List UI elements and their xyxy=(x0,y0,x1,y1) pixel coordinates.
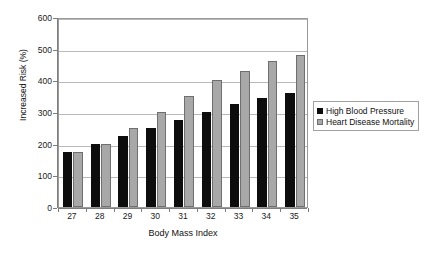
y-axis-tick-mark xyxy=(53,113,57,114)
x-axis-tick-labels: 272829303132333435 xyxy=(58,211,308,225)
y-axis-tick-mark xyxy=(53,50,57,51)
x-axis-tick-mark xyxy=(141,208,142,212)
bar xyxy=(257,98,267,207)
bar xyxy=(157,112,167,207)
y-axis-tick-label: 0 xyxy=(18,204,52,212)
y-axis-tick-mark xyxy=(53,81,57,82)
y-axis-tick-label: 200 xyxy=(18,141,52,149)
plot-inner xyxy=(59,19,307,207)
bar xyxy=(202,112,212,207)
x-axis-tick-label: 30 xyxy=(143,211,167,221)
x-axis-tick-mark xyxy=(114,208,115,212)
bar xyxy=(296,55,306,207)
bar xyxy=(101,144,111,207)
y-axis-tick-label: 500 xyxy=(18,46,52,54)
bar xyxy=(129,128,139,207)
x-axis-tick-label: 34 xyxy=(254,211,278,221)
x-axis-tick-mark xyxy=(280,208,281,212)
x-axis-tick-label: 29 xyxy=(115,211,139,221)
y-axis-tick-label: 300 xyxy=(18,109,52,117)
x-axis-tick-label: 32 xyxy=(199,211,223,221)
x-axis-tick-label: 27 xyxy=(60,211,84,221)
x-axis-tick-mark xyxy=(86,208,87,212)
legend-swatch-icon xyxy=(317,108,323,114)
bar xyxy=(184,96,194,207)
legend-item: High Blood Pressure xyxy=(317,105,414,116)
x-axis-tick-label: 35 xyxy=(282,211,306,221)
bar-group xyxy=(253,19,281,207)
x-axis-title: Body Mass Index xyxy=(58,228,308,238)
bar xyxy=(230,104,240,207)
bar-group xyxy=(226,19,254,207)
y-axis-tick-label: 100 xyxy=(18,172,52,180)
y-axis-tick-label: 600 xyxy=(18,14,52,22)
bar xyxy=(240,71,250,207)
y-axis-tick-mark xyxy=(53,208,57,209)
bar xyxy=(91,144,101,207)
bar-group xyxy=(115,19,143,207)
bar xyxy=(285,93,295,207)
bar-group xyxy=(170,19,198,207)
bar xyxy=(268,61,278,207)
legend-item: Heart Disease Mortality xyxy=(317,116,414,127)
bar xyxy=(212,80,222,207)
x-axis-tick-mark xyxy=(169,208,170,212)
bar-group xyxy=(142,19,170,207)
bar-group xyxy=(87,19,115,207)
chart-legend: High Blood PressureHeart Disease Mortali… xyxy=(313,101,419,131)
y-axis-tick-label: 400 xyxy=(18,77,52,85)
y-axis-tick-mark xyxy=(53,18,57,19)
x-axis-tick-label: 28 xyxy=(88,211,112,221)
legend-label: High Blood Pressure xyxy=(326,106,404,116)
legend-swatch-icon xyxy=(317,119,323,125)
bar xyxy=(73,152,83,207)
x-axis-tick-label: 33 xyxy=(227,211,251,221)
x-axis-tick-mark xyxy=(197,208,198,212)
x-axis-tick-label: 31 xyxy=(171,211,195,221)
x-axis-tick-mark xyxy=(308,208,309,212)
x-axis-tick-mark xyxy=(225,208,226,212)
bar xyxy=(118,136,128,207)
bar xyxy=(63,152,73,207)
bar xyxy=(146,128,156,207)
plot-area xyxy=(58,18,308,208)
bar xyxy=(174,120,184,207)
x-axis-tick-mark xyxy=(58,208,59,212)
legend-label: Heart Disease Mortality xyxy=(326,117,414,127)
bar-group xyxy=(281,19,309,207)
gridline xyxy=(59,208,307,209)
bar-group xyxy=(59,19,87,207)
x-axis-tick-mark xyxy=(252,208,253,212)
bar-chart: Increased Risk (%) 0100200300400500600 2… xyxy=(0,0,428,260)
bar-group xyxy=(198,19,226,207)
y-axis-tick-mark xyxy=(53,145,57,146)
y-axis-tick-labels: 0100200300400500600 xyxy=(18,18,54,208)
y-axis-tick-mark xyxy=(53,176,57,177)
